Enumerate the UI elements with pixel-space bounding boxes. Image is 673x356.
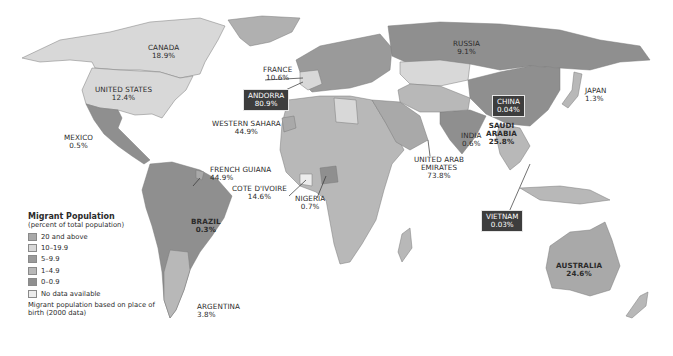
map-legend: Migrant Population (percent of total pop…: [28, 212, 158, 318]
label-saudi-arabia: SAUDI ARABIA 25.8%: [486, 122, 517, 147]
label-japan: JAPAN 1.3%: [585, 87, 607, 103]
legend-swatch: [28, 233, 37, 241]
region-greenland: [228, 16, 300, 46]
label-french-guiana: FRENCH GUIANA 44.9%: [210, 166, 271, 182]
legend-swatch: [28, 255, 37, 263]
region-australia: [546, 222, 620, 296]
legend-swatch: [28, 290, 37, 298]
region-kazakhstan: [400, 60, 470, 86]
callout-china: CHINA 0.04%: [492, 95, 525, 117]
label-cote-divoire: COTE D'IVOIRE 14.6%: [232, 185, 287, 201]
legend-note: Migrant population based on place of bir…: [28, 302, 158, 317]
legend-item: 5–9.9: [28, 254, 158, 265]
region-madagascar: [398, 228, 412, 262]
legend-item: 20 and above: [28, 231, 158, 242]
legend-title: Migrant Population: [28, 212, 158, 221]
label-uae: UNITED ARAB EMIRATES 73.8%: [414, 156, 464, 181]
legend-item: No data available: [28, 288, 158, 299]
label-brazil: BRAZIL 0.3%: [191, 218, 221, 234]
region-japan: [562, 72, 582, 108]
region-new-zealand: [626, 292, 648, 318]
legend-item: 10–19.9: [28, 242, 158, 253]
callout-andorra: ANDORRA 80.9%: [243, 89, 289, 111]
legend-item: 1–4.9: [28, 265, 158, 276]
label-mexico: MEXICO 0.5%: [64, 134, 93, 150]
legend-swatch: [28, 267, 37, 275]
label-nigeria: NIGERIA 0.7%: [295, 195, 325, 211]
callout-vietnam: VIETNAM 0.03%: [481, 210, 523, 232]
region-canada: [22, 18, 225, 78]
legend-swatch: [28, 244, 37, 252]
label-canada: CANADA 18.9%: [148, 44, 179, 60]
label-western-sahara: WESTERN SAHARA 44.9%: [212, 120, 281, 136]
region-indonesia: [520, 186, 610, 204]
label-argentina: ARGENTINA 3.8%: [197, 303, 240, 319]
label-india: INDIA 0.6%: [461, 132, 482, 148]
label-russia: RUSSIA 9.1%: [453, 40, 480, 56]
label-australia: AUSTRALIA 24.6%: [556, 262, 602, 278]
label-united-states: UNITED STATES 12.4%: [95, 86, 152, 102]
legend-item: 0–0.9: [28, 277, 158, 288]
label-france: FRANCE 10.6%: [263, 66, 292, 82]
region-argentina: [164, 250, 190, 318]
legend-swatch: [28, 278, 37, 286]
region-nigeria: [320, 166, 338, 184]
legend-subtitle: (percent of total population): [28, 221, 158, 229]
region-libya: [334, 98, 358, 124]
region-middle-asia: [398, 84, 470, 112]
